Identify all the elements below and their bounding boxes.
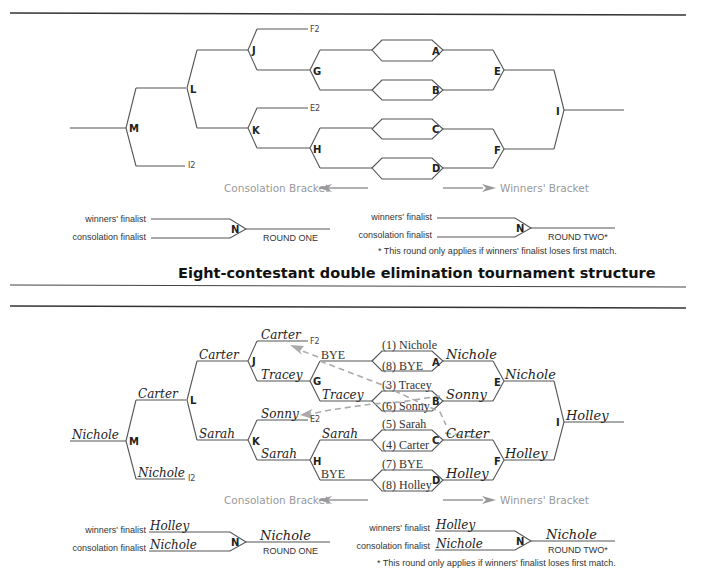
svg-text:F: F [494,456,501,467]
svg-text:I: I [556,417,560,428]
svg-text:winners' finalist: winners' finalist [370,212,432,222]
svg-text:Winners' Bracket: Winners' Bracket [500,494,589,506]
svg-text:Holley: Holley [435,518,475,532]
svg-text:D: D [432,163,440,174]
svg-text:winners' finalist: winners' finalist [84,525,146,535]
svg-text:(5) Sarah: (5) Sarah [382,417,426,431]
svg-text:K: K [252,436,261,447]
svg-text:Sarah: Sarah [261,447,297,461]
svg-text:(6) Sonny: (6) Sonny [382,399,430,413]
svg-text:Sonny: Sonny [261,407,299,421]
svg-text:Nichole: Nichole [259,528,311,543]
blank-bracket [70,29,624,179]
svg-text:M: M [129,436,139,447]
svg-text:L: L [190,395,197,406]
svg-text:Nichole: Nichole [71,428,119,442]
svg-text:Nichole: Nichole [504,367,556,382]
svg-text:Carter: Carter [446,426,490,441]
svg-text:(4) Carter: (4) Carter [382,438,429,452]
svg-text:J: J [251,356,256,367]
svg-text:C: C [432,124,439,135]
svg-text:D: D [432,475,440,486]
svg-text:I: I [556,106,560,117]
svg-text:Holley: Holley [504,446,548,461]
svg-text:(1) Nichole: (1) Nichole [382,338,437,352]
svg-text:K: K [252,125,261,136]
svg-text:consolation finalist: consolation finalist [72,543,146,553]
svg-text:BYE: BYE [321,348,345,362]
svg-text:Winners' Bracket: Winners' Bracket [500,182,589,194]
svg-text:Nichole: Nichole [545,527,597,542]
blank-legend: Consolation Bracket Winners' Bracket [224,182,589,194]
svg-text:E: E [494,377,501,388]
svg-text:B: B [432,85,440,96]
top-rule [10,13,686,15]
svg-text:ROUND ONE: ROUND ONE [263,546,318,556]
svg-text:ROUND TWO*: ROUND TWO* [548,545,608,555]
svg-text:Carter: Carter [199,348,240,362]
arrow-right-icon [482,496,496,504]
drop-arrow-icon [290,345,304,355]
svg-text:Sarah: Sarah [199,427,235,441]
example-legend: Consolation Bracket Winners' Bracket [224,494,589,506]
svg-text:F: F [494,145,501,156]
svg-text:N: N [231,224,239,235]
svg-text:winners' finalist: winners' finalist [368,523,430,533]
svg-text:Holley: Holley [149,519,189,533]
svg-text:B: B [432,396,440,407]
svg-text:winners' finalist: winners' finalist [84,214,146,224]
svg-text:L: L [190,84,197,95]
svg-text:F2: F2 [310,337,320,346]
svg-text:* This round only applies if w: * This round only applies if winners' fi… [377,558,616,568]
title-rule [10,285,686,287]
svg-text:ROUND ONE: ROUND ONE [263,233,318,243]
example-results: Nichole Sonny Carter Holley Nichole Holl… [71,328,609,481]
svg-text:Consolation Bracket: Consolation Bracket [224,494,329,506]
svg-text:A: A [432,46,440,57]
svg-text:(7) BYE: (7) BYE [382,457,423,471]
svg-text:N: N [516,223,524,234]
tournament-diagram: M L J K G H A B C D E F I F2 E2 I2 Conso… [0,0,702,585]
svg-text:Tracey: Tracey [261,368,303,382]
svg-text:N: N [516,536,524,547]
svg-text:BYE: BYE [321,467,345,481]
svg-text:(3) Tracey: (3) Tracey [382,378,432,392]
example-final-round-two: winners' finalist consolation finalist N… [356,518,615,568]
svg-text:N: N [231,537,239,548]
arrow-right-icon [482,184,496,192]
svg-text:C: C [432,435,439,446]
svg-text:Nichole: Nichole [149,538,197,552]
svg-text:I2: I2 [188,474,195,483]
svg-text:consolation finalist: consolation finalist [356,541,430,551]
svg-text:E2: E2 [310,104,320,113]
page-title: Eight-contestant double elimination tour… [178,265,656,281]
svg-text:Carter: Carter [261,328,302,342]
svg-text:G: G [313,376,321,387]
svg-text:Carter: Carter [138,387,179,401]
blank-match-labels: M L J K G H A B C D E F I F2 E2 I2 [129,25,560,174]
blank-final-round-one: winners' finalist consolation finalist N… [72,214,330,243]
svg-text:Nichole: Nichole [445,347,497,362]
svg-text:F2: F2 [310,25,320,34]
svg-text:* This round only applies if w: * This round only applies if winners' fi… [378,246,617,256]
bottom-rule [10,306,686,308]
svg-text:E: E [494,66,501,77]
svg-text:Sarah: Sarah [322,427,358,441]
svg-text:E2: E2 [310,415,320,424]
svg-text:G: G [313,66,321,77]
svg-text:ROUND TWO*: ROUND TWO* [548,232,608,242]
svg-text:A: A [432,357,440,368]
svg-text:Tracey: Tracey [322,388,364,402]
svg-text:H: H [313,456,321,467]
svg-text:Sonny: Sonny [446,387,487,402]
svg-text:consolation finalist: consolation finalist [72,232,146,242]
svg-text:Nichole: Nichole [435,537,483,551]
svg-text:(8) Holley: (8) Holley [382,478,432,492]
example-final-round-one: winners' finalist consolation finalist N… [72,519,330,556]
svg-text:Holley: Holley [565,408,609,423]
blank-final-round-two: winners' finalist consolation finalist N… [358,212,616,256]
svg-text:H: H [313,144,321,155]
svg-text:M: M [129,123,139,134]
svg-text:Consolation Bracket: Consolation Bracket [224,182,329,194]
example-seeds: (1) Nichole (8) BYE (3) Tracey (6) Sonny… [382,338,437,492]
